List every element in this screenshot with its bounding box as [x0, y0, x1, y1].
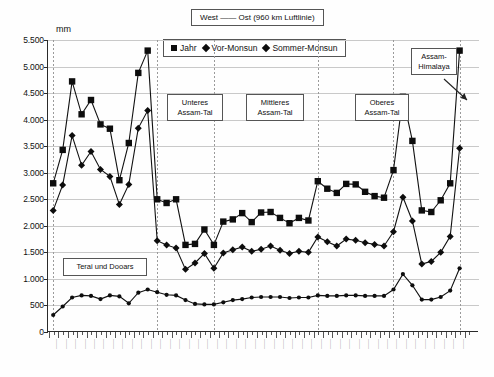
- data-point-marker: [315, 178, 321, 184]
- x-axis-station-label: ——: [168, 339, 173, 349]
- x-axis-tick: [49, 332, 50, 338]
- data-point-marker: [353, 181, 359, 187]
- x-axis-tick: [238, 332, 239, 338]
- x-axis-tick: [460, 332, 461, 335]
- data-point-marker: [401, 272, 405, 276]
- x-axis-tick: [153, 332, 154, 338]
- data-point-marker: [335, 294, 339, 298]
- annotation-mittleres-assam-tal: MittleresAssam-Tal: [246, 94, 304, 121]
- x-axis-tick: [361, 332, 362, 338]
- data-point-marker: [278, 295, 282, 299]
- x-axis-tick: [309, 332, 310, 335]
- x-axis-tick: [257, 332, 258, 338]
- data-point-marker: [97, 121, 103, 127]
- x-axis-tick: [134, 332, 135, 338]
- data-series-layer: [48, 40, 479, 332]
- data-point-marker: [382, 294, 386, 298]
- y-axis-unit-label: mm: [56, 24, 71, 34]
- data-point-marker: [126, 140, 132, 146]
- data-point-marker: [88, 97, 94, 103]
- x-axis-station-label: ——: [432, 339, 437, 349]
- x-axis-station-label: ——: [139, 339, 144, 349]
- data-point-marker: [334, 190, 340, 196]
- data-point-marker: [201, 226, 207, 232]
- data-point-marker: [249, 219, 255, 225]
- data-point-marker: [428, 209, 434, 215]
- x-axis-tick: [314, 332, 315, 338]
- x-axis-tick: [328, 332, 329, 335]
- data-point-marker: [116, 201, 123, 208]
- annotation-unteres-assam-tal: UnteresAssam-Tal: [167, 94, 223, 121]
- x-axis-tick: [148, 332, 149, 335]
- x-axis-tick: [441, 332, 442, 335]
- data-point-marker: [286, 220, 292, 226]
- x-axis-station-label: ——: [234, 339, 239, 349]
- x-axis-tick: [285, 332, 286, 338]
- data-point-marker: [456, 145, 463, 152]
- x-axis-tick: [427, 332, 428, 338]
- data-point-marker: [69, 132, 76, 139]
- x-axis-tick: [115, 332, 116, 338]
- data-point-marker: [325, 294, 329, 298]
- data-point-marker: [305, 249, 312, 256]
- x-axis-tick: [214, 332, 215, 335]
- x-axis-tick: [210, 332, 211, 338]
- x-axis-tick: [125, 332, 126, 338]
- chart-title-box: West —— Ost (960 km Luftlinie): [191, 9, 324, 26]
- data-point-marker: [343, 181, 349, 187]
- x-axis-tick: [389, 332, 390, 338]
- x-axis-tick: [73, 332, 74, 335]
- data-point-marker: [391, 287, 395, 291]
- data-point-marker: [211, 242, 217, 248]
- data-point-marker: [248, 248, 255, 255]
- x-axis-station-label: ——: [111, 339, 116, 349]
- x-axis-station-label: ——: [451, 339, 456, 349]
- data-point-marker: [210, 265, 217, 272]
- data-point-marker: [154, 196, 160, 202]
- data-point-marker: [193, 302, 197, 306]
- data-point-marker: [154, 237, 161, 244]
- data-point-marker: [183, 298, 187, 302]
- data-point-marker: [324, 186, 330, 192]
- x-axis-tick: [436, 332, 437, 338]
- x-axis-tick: [356, 332, 357, 335]
- x-axis-station-label: ——: [253, 339, 258, 349]
- data-point-marker: [277, 215, 283, 221]
- data-point-marker: [192, 241, 198, 247]
- x-axis-station-label: ——: [158, 339, 163, 349]
- x-axis-tick: [262, 332, 263, 335]
- x-axis-ticks: [47, 332, 478, 339]
- x-axis-tick: [280, 332, 281, 335]
- data-point-marker: [409, 138, 415, 144]
- x-axis-tick: [332, 332, 333, 338]
- x-axis-tick: [375, 332, 376, 335]
- x-axis-tick: [384, 332, 385, 335]
- x-axis-tick: [295, 332, 296, 338]
- data-point-marker: [60, 147, 66, 153]
- data-point-marker: [267, 242, 274, 249]
- data-point-marker: [174, 293, 178, 297]
- data-point-marker: [390, 167, 396, 173]
- data-point-marker: [135, 125, 142, 132]
- x-axis-tick: [399, 332, 400, 338]
- data-point-marker: [267, 209, 273, 215]
- x-axis-tick: [247, 332, 248, 338]
- y-axis-tick-label: 500: [30, 300, 44, 310]
- x-axis-station-label: ——: [338, 339, 343, 349]
- x-axis-tick: [299, 332, 300, 335]
- x-axis-tick: [243, 332, 244, 335]
- data-point-marker: [306, 295, 310, 299]
- x-axis-tick: [139, 332, 140, 335]
- y-axis-tick-label: 3.000: [23, 168, 44, 178]
- x-axis-tick: [446, 332, 447, 338]
- data-point-marker: [352, 237, 359, 244]
- data-point-marker: [144, 107, 151, 114]
- x-axis-tick: [276, 332, 277, 338]
- data-point-marker: [155, 290, 159, 294]
- data-point-marker: [212, 302, 216, 306]
- y-axis-tick-label: 4.000: [23, 115, 44, 125]
- data-point-marker: [333, 242, 340, 249]
- data-point-marker: [418, 261, 425, 268]
- data-point-marker: [316, 293, 320, 297]
- data-point-marker: [399, 194, 406, 201]
